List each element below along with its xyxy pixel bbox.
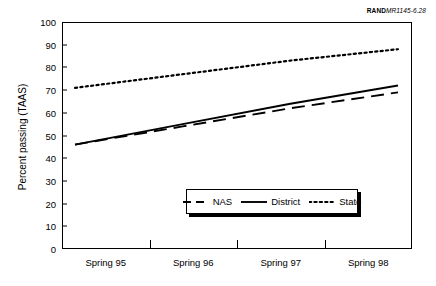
legend-swatch-solid [241,198,267,206]
y-tick-label: 80 [45,62,56,73]
x-tick-label: Spring 96 [173,257,214,268]
y-tick-label: 60 [45,107,56,118]
chart-figure: RANDMR1145-6.28 Percent passing (TAAS) 0… [0,0,436,286]
y-tick-label: 40 [45,153,56,164]
legend-box: NASDistrictState [186,189,358,214]
x-tick-label: Spring 95 [85,257,126,268]
x-tick-label: Spring 97 [260,257,301,268]
series-line-nas [75,92,398,144]
series-line-district [75,86,398,145]
legend-entry-state[interactable]: State [309,196,361,207]
y-tick-label: 20 [45,198,56,209]
y-tick-label: 30 [45,175,56,186]
y-tick-label: 100 [40,17,56,28]
series-line-state [75,49,398,88]
legend-entry-district[interactable]: District [241,196,300,207]
y-tick-label: 0 [51,244,56,255]
y-tick-label: 50 [45,130,56,141]
legend-label: District [271,196,300,207]
y-axis-title: Percent passing (TAAS) [16,21,30,253]
y-tick-label: 10 [45,221,56,232]
y-tick-label: 90 [45,39,56,50]
credit-organization: RAND [367,7,386,14]
legend-entry-nas[interactable]: NAS [183,196,233,207]
legend-swatch-dashed [183,198,209,206]
source-credit: RANDMR1145-6.28 [367,7,426,14]
legend: NASDistrictState [186,189,358,214]
y-tick-label: 70 [45,85,56,96]
legend-label: State [339,196,361,207]
legend-swatch-dotted [309,198,335,206]
credit-document-number: MR1145-6.28 [386,7,426,14]
legend-label: NAS [213,196,233,207]
x-tick-label: Spring 98 [348,257,389,268]
